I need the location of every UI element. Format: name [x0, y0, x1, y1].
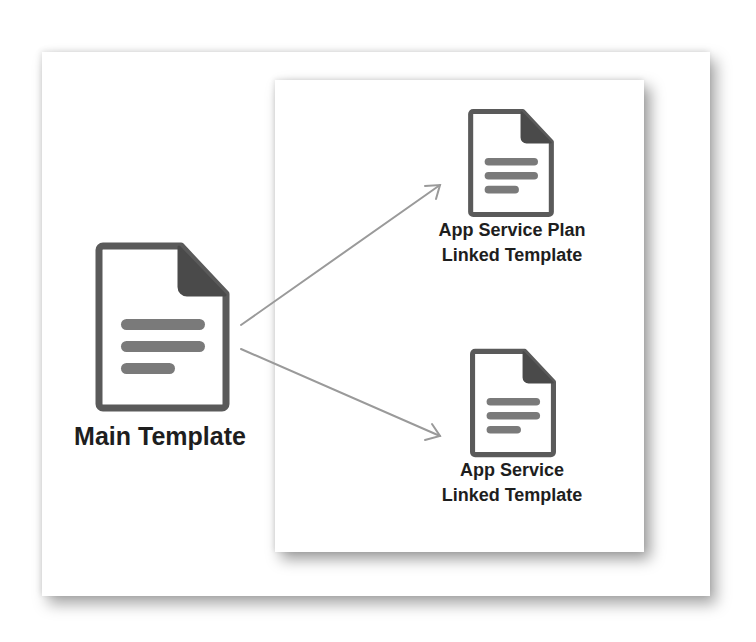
main-template-document-icon — [95, 242, 230, 412]
app-service-label-line-1: App Service — [412, 458, 612, 483]
app-service-plan-label-line-1: App Service Plan — [412, 218, 612, 243]
main-template-label-line: Main Template — [44, 420, 276, 452]
app-service-plan-label: App Service Plan Linked Template — [412, 218, 612, 268]
app-service-plan-document-icon — [468, 109, 554, 217]
app-service-document-icon — [470, 348, 556, 458]
app-service-label-line-2: Linked Template — [412, 483, 612, 508]
main-template-label: Main Template — [44, 420, 276, 452]
app-service-label: App Service Linked Template — [412, 458, 612, 508]
app-service-plan-label-line-2: Linked Template — [412, 243, 612, 268]
